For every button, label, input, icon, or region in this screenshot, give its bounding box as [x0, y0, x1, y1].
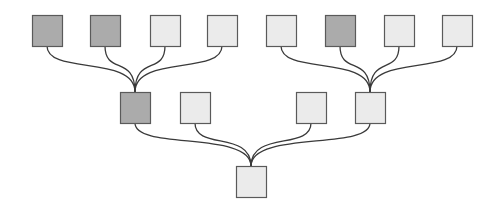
- node-t5: [267, 16, 297, 47]
- edge-t1-to-m1: [47, 46, 135, 92]
- node-b1: [237, 167, 267, 198]
- light-square-node: [181, 93, 211, 124]
- light-square-node: [356, 93, 386, 124]
- edge-t5-to-m4: [281, 46, 370, 92]
- light-square-node: [385, 16, 415, 47]
- node-t7: [385, 16, 415, 47]
- light-square-node: [267, 16, 297, 47]
- node-t3: [151, 16, 181, 47]
- node-t6: [326, 16, 356, 47]
- edge-t4-to-m1: [135, 46, 222, 92]
- node-m4: [356, 93, 386, 124]
- light-square-node: [297, 93, 327, 124]
- edge-m3-to-b1: [251, 123, 311, 166]
- edge-layer: [47, 46, 457, 166]
- dark-square-node: [91, 16, 121, 47]
- node-t2: [91, 16, 121, 47]
- node-m1: [121, 93, 151, 124]
- tree-diagram: [0, 0, 495, 212]
- light-square-node: [237, 167, 267, 198]
- node-m2: [181, 93, 211, 124]
- dark-square-node: [33, 16, 63, 47]
- node-t4: [208, 16, 238, 47]
- light-square-node: [443, 16, 473, 47]
- dark-square-node: [121, 93, 151, 124]
- edge-t8-to-m4: [370, 46, 457, 92]
- light-square-node: [208, 16, 238, 47]
- node-t8: [443, 16, 473, 47]
- edge-m2-to-b1: [195, 123, 251, 166]
- node-t1: [33, 16, 63, 47]
- node-m3: [297, 93, 327, 124]
- node-layer: [33, 16, 473, 198]
- light-square-node: [151, 16, 181, 47]
- dark-square-node: [326, 16, 356, 47]
